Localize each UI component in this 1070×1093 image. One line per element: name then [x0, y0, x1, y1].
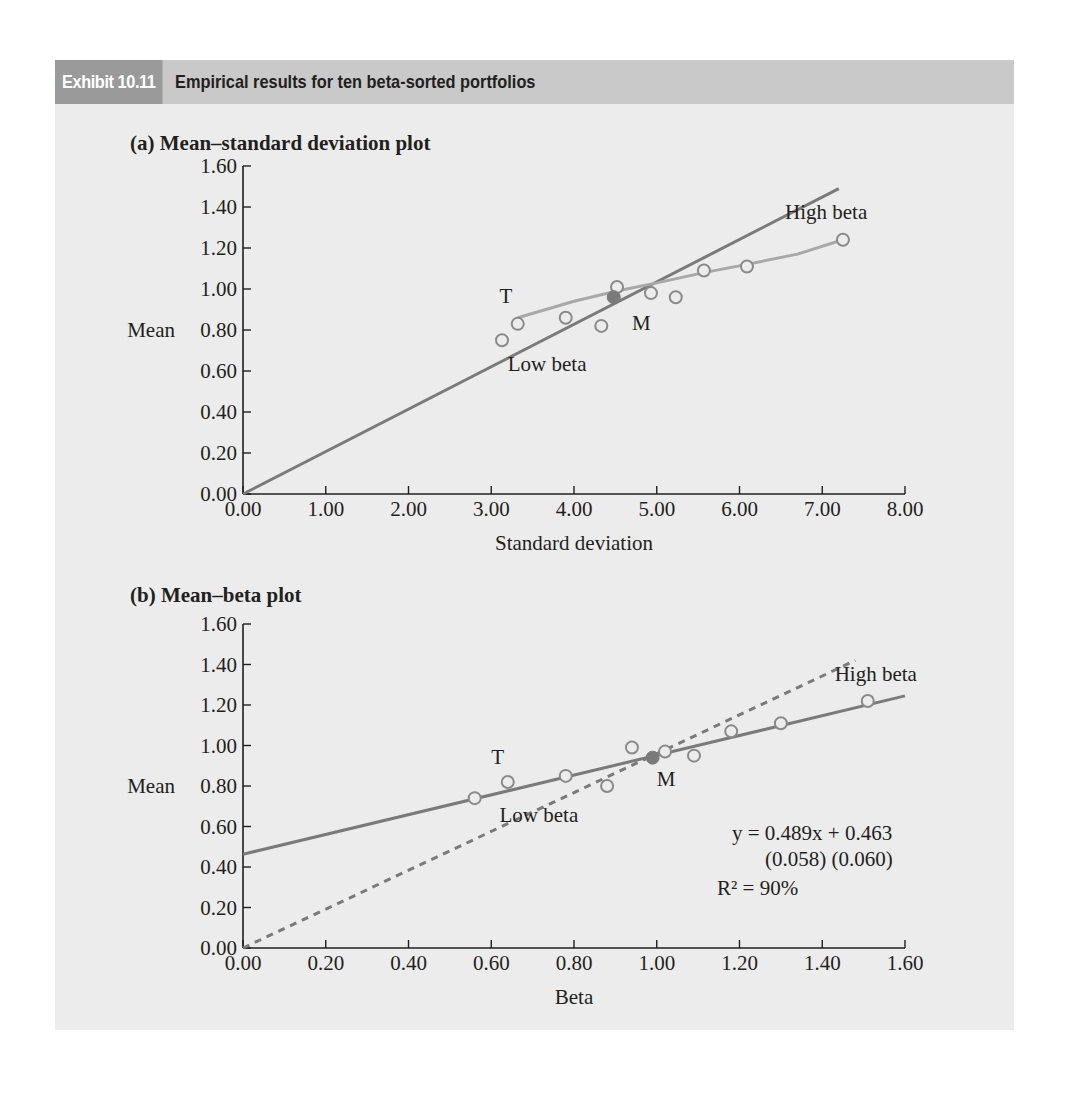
y-tick-label: 0.80: [200, 318, 237, 342]
portfolio-marker: [595, 320, 607, 332]
y-tick-label: 0.40: [200, 855, 237, 879]
portfolio-marker: [496, 334, 508, 346]
portfolio-marker: [626, 742, 638, 754]
x-tick-label: 1.20: [721, 951, 758, 975]
portfolio-marker: [725, 725, 737, 737]
series-line-efficient-frontier: [518, 240, 843, 318]
portfolio-marker: [837, 234, 849, 246]
x-tick-label: 0.00: [225, 497, 262, 521]
x-tick-label: 3.00: [473, 497, 510, 521]
portfolio-marker: [645, 287, 657, 299]
x-tick-label: 1.40: [804, 951, 841, 975]
annotation-t: T: [500, 284, 513, 308]
y-tick-label: 1.20: [200, 236, 237, 260]
x-tick-label: 0.80: [556, 951, 593, 975]
annotation-t: T: [491, 745, 504, 769]
y-axis-label-b: Mean: [127, 774, 175, 798]
y-tick-label: 1.00: [200, 277, 237, 301]
y-tick-label: 0.40: [200, 400, 237, 424]
y-axis-label-a: Mean: [127, 318, 175, 342]
annotation-m: M: [657, 767, 676, 791]
y-tick-label: 0.80: [200, 774, 237, 798]
x-tick-label: 1.00: [638, 951, 675, 975]
x-tick-label: 8.00: [887, 497, 924, 521]
market-marker: [646, 751, 659, 764]
y-tick-label: 1.00: [200, 734, 237, 758]
x-axis-label-a: Standard deviation: [495, 531, 654, 555]
portfolio-marker: [775, 717, 787, 729]
portfolio-marker: [659, 746, 671, 758]
x-tick-label: 0.40: [390, 951, 427, 975]
y-tick-label: 1.60: [200, 612, 237, 636]
portfolio-marker: [502, 776, 514, 788]
y-tick-label: 1.20: [200, 693, 237, 717]
annotation-low-beta: Low beta: [508, 352, 587, 376]
x-tick-label: 0.60: [473, 951, 510, 975]
x-tick-label: 7.00: [804, 497, 841, 521]
x-tick-label: 1.60: [887, 951, 924, 975]
series-line-tangency-line: [243, 189, 839, 494]
portfolio-marker: [862, 695, 874, 707]
x-tick-label: 0.00: [225, 951, 262, 975]
y-tick-label: 0.20: [200, 441, 237, 465]
portfolio-marker: [601, 780, 613, 792]
y-tick-label: 1.40: [200, 653, 237, 677]
annotation-low-beta: Low beta: [500, 803, 579, 827]
y-tick-label: 0.20: [200, 896, 237, 920]
y-tick-label: 1.60: [200, 154, 237, 178]
x-tick-label: 6.00: [721, 497, 758, 521]
regression-std-errors: (0.058) (0.060): [765, 847, 893, 871]
charts-svg: 0.000.200.400.600.801.001.201.401.600.00…: [0, 0, 1070, 1093]
regression-equation: y = 0.489x + 0.463: [732, 821, 892, 845]
x-tick-label: 1.00: [307, 497, 344, 521]
portfolio-marker: [670, 291, 682, 303]
y-tick-label: 1.40: [200, 195, 237, 219]
x-axis-label-b: Beta: [555, 985, 594, 1009]
annotation-high-beta: High beta: [785, 200, 868, 224]
portfolio-marker: [512, 318, 524, 330]
x-tick-label: 4.00: [556, 497, 593, 521]
regression-r-squared: R² = 90%: [717, 876, 798, 900]
portfolio-marker: [688, 750, 700, 762]
annotation-m: M: [632, 311, 651, 335]
portfolio-marker: [741, 260, 753, 272]
x-tick-label: 2.00: [390, 497, 427, 521]
x-tick-label: 0.20: [307, 951, 344, 975]
portfolio-marker: [560, 770, 572, 782]
portfolio-marker: [560, 312, 572, 324]
portfolio-marker: [698, 265, 710, 277]
x-tick-label: 5.00: [638, 497, 675, 521]
y-tick-label: 0.60: [200, 815, 237, 839]
y-tick-label: 0.60: [200, 359, 237, 383]
market-marker: [607, 291, 620, 304]
annotation-high-beta: High beta: [835, 662, 918, 686]
portfolio-marker: [469, 792, 481, 804]
